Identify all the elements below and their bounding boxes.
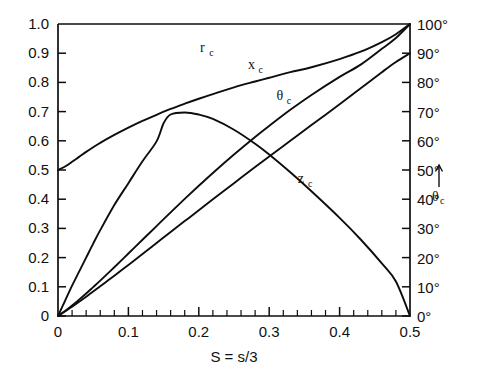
theta-axis-arrow-label: θ	[432, 189, 439, 204]
y-axis-right-tick-label: 60°	[417, 133, 440, 150]
curve-label-z_c: z	[298, 171, 304, 186]
y-axis-left-tick-label: 0.1	[28, 278, 49, 295]
y-axis-left-tick-label: 0.6	[28, 132, 49, 149]
x-axis-tick-label: 0.5	[400, 323, 421, 340]
y-axis-left-tick-label: 0.3	[28, 219, 49, 236]
curve-label-r_c: r	[200, 40, 205, 55]
curve-label-sub-z_c: c	[308, 178, 313, 189]
y-axis-left-tick-label: 0.8	[28, 73, 49, 90]
y-axis-left-tick-label: 0.4	[28, 190, 49, 207]
curve-label-theta_c: θ	[276, 88, 283, 103]
y-axis-left-tick-label: 0.2	[28, 249, 49, 266]
x-axis-tick-label: 0.4	[329, 323, 350, 340]
y-axis-left-tick-label: 0.7	[28, 103, 49, 120]
theta-axis-arrow-label-sub: c	[440, 195, 445, 206]
y-axis-right-tick-label: 80°	[417, 74, 440, 91]
y-axis-left-tick-label: 0.9	[28, 44, 49, 61]
x-axis-tick-label: 0.2	[188, 323, 209, 340]
chart-figure: 00.10.20.30.40.50.60.70.80.91.0 0°10°20°…	[0, 0, 478, 376]
y-axis-left-tick-label: 0	[41, 307, 49, 324]
y-axis-right-tick-label: 90°	[417, 45, 440, 62]
x-axis-tick-label: 0	[54, 323, 62, 340]
x-axis-tick-label: 0.1	[118, 323, 139, 340]
y-axis-left-tick-label: 0.5	[28, 161, 49, 178]
x-axis-title: S = s/3	[210, 348, 257, 365]
y-axis-right-tick-label: 30°	[417, 220, 440, 237]
y-axis-right-tick-label: 20°	[417, 250, 440, 267]
y-axis-right-tick-label: 100°	[417, 16, 448, 33]
curve-label-sub-theta_c: c	[287, 95, 292, 106]
y-axis-right-tick-label: 10°	[417, 279, 440, 296]
curve-label-sub-x_c: c	[259, 64, 264, 75]
x-axis-tick-label: 0.3	[259, 323, 280, 340]
y-axis-left-tick-label: 1.0	[28, 15, 49, 32]
y-axis-right-tick-label: 70°	[417, 104, 440, 121]
curve-label-sub-r_c: c	[209, 47, 214, 58]
curve-label-x_c: x	[248, 57, 255, 72]
